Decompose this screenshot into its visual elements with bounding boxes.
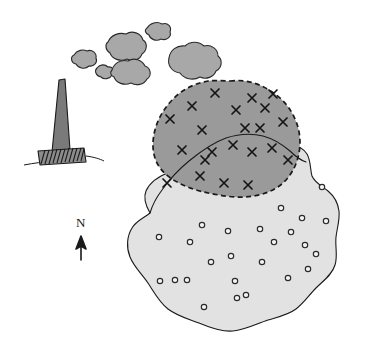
circle-mark-icon <box>157 278 162 283</box>
smoke-puff-icon <box>111 59 151 84</box>
smokestack-base <box>38 148 86 165</box>
circle-mark-icon <box>323 218 328 223</box>
circle-mark-icon <box>257 226 262 231</box>
circle-mark-icon <box>199 222 204 227</box>
circle-mark-icon <box>302 242 307 247</box>
smokestack-shaft <box>52 79 70 152</box>
circle-mark-icon <box>232 278 237 283</box>
circle-mark-icon <box>288 229 293 234</box>
circle-mark-icon <box>278 205 283 210</box>
smoke-puff-icon <box>145 23 170 41</box>
circle-mark-icon <box>184 277 189 282</box>
circle-mark-icon <box>259 259 264 264</box>
circle-mark-icon <box>285 275 290 280</box>
north-arrow <box>76 236 86 260</box>
circle-mark-icon <box>208 259 213 264</box>
circle-mark-icon <box>228 253 233 258</box>
circle-mark-icon <box>187 239 192 244</box>
circle-mark-icon <box>305 266 310 271</box>
smokestack <box>24 79 104 165</box>
circle-mark-icon <box>319 184 324 189</box>
smoke-plume-puffs <box>72 23 222 85</box>
circle-mark-icon <box>172 277 177 282</box>
circle-mark-icon <box>313 251 318 256</box>
north-arrow-icon <box>76 236 86 260</box>
smoke-puff-icon <box>169 42 222 79</box>
circle-mark-icon <box>201 304 206 309</box>
pollution-dispersion-figure: N <box>0 0 369 351</box>
circle-mark-icon <box>225 228 230 233</box>
circle-mark-icon <box>299 215 304 220</box>
circle-mark-icon <box>243 292 248 297</box>
circle-mark-icon <box>234 295 239 300</box>
smoke-puff-icon <box>106 32 146 60</box>
circle-mark-icon <box>156 234 161 239</box>
circle-mark-icon <box>271 239 276 244</box>
north-label: N <box>76 215 86 231</box>
map-canvas <box>0 0 369 351</box>
smoke-puff-icon <box>72 50 97 68</box>
